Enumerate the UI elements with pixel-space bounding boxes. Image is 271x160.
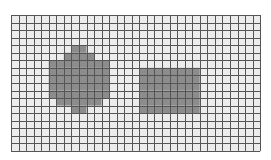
grid-canvas	[11, 15, 262, 152]
pixel-grid	[11, 15, 262, 152]
filled-cells	[49, 60, 109, 68]
filled-cells	[71, 45, 86, 53]
filled-cells	[139, 75, 199, 83]
filled-cells	[49, 75, 109, 83]
filled-cells	[49, 83, 109, 91]
filled-cells	[139, 98, 199, 106]
filled-cells	[139, 83, 199, 91]
